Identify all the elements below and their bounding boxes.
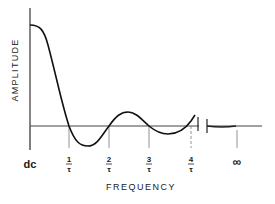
tick-label-1: 1 τ — [66, 155, 72, 174]
svg-text:1: 1 — [67, 155, 72, 164]
amplitude-frequency-chart: dc 1 τ 2 τ 3 τ 4 τ ∞ FREQUENCY AMPLITUDE — [0, 0, 275, 204]
tick-label-4: 4 τ — [188, 155, 194, 174]
svg-text:4: 4 — [189, 155, 194, 164]
svg-text:τ: τ — [147, 165, 151, 174]
tick-label-3: 3 τ — [146, 155, 152, 174]
svg-text:τ: τ — [189, 165, 193, 174]
y-axis-label: AMPLITUDE — [10, 38, 20, 101]
x-axis-label: FREQUENCY — [106, 182, 176, 192]
svg-text:τ: τ — [67, 165, 71, 174]
tick-label-dc: dc — [24, 158, 37, 170]
svg-text:3: 3 — [147, 155, 152, 164]
svg-text:2: 2 — [107, 155, 112, 164]
tick-label-infinity: ∞ — [233, 155, 242, 169]
svg-text:τ: τ — [107, 165, 111, 174]
tick-label-2: 2 τ — [106, 155, 112, 174]
sinc-curve — [30, 25, 195, 146]
